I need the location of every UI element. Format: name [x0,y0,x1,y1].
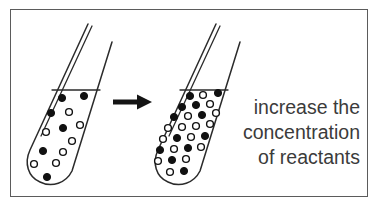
particle-open [43,129,50,136]
particle-open [193,123,200,130]
particle-open [53,160,60,167]
caption-line-3: of reactants [200,145,360,170]
particle-filled [173,134,180,141]
left-tube-outline [27,24,112,185]
particle-filled [168,156,175,163]
particle-filled [80,92,87,99]
particle-open [183,156,190,163]
caption-text: increase the concentration of reactants [200,95,360,170]
particle-filled [186,92,193,99]
particle-filled [184,144,191,151]
particle-open [77,122,84,129]
particle-filled [170,113,177,120]
particle-open [155,158,162,165]
arrow-head [137,95,152,110]
transformation-arrow [113,95,152,110]
particle-filled [58,94,65,101]
particle-filled [47,109,54,116]
particle-open [188,134,195,141]
particle-open [160,136,167,143]
particle-open [185,113,192,120]
caption-line-1: increase the [200,95,360,120]
particle-filled [59,124,66,131]
particle-filled [178,103,185,110]
particle-open [60,149,67,156]
particle-open [31,161,38,168]
particle-filled [43,173,50,180]
particle-filled [156,146,163,153]
particle-open [179,124,186,131]
particle-open [66,109,73,116]
particle-open [171,146,178,153]
particle-filled [39,147,46,154]
particle-open [69,138,76,145]
figure-container: increase the concentration of reactants [0,0,379,219]
particle-filled [180,167,187,174]
particle-open [167,169,174,176]
particle-open [165,125,172,132]
caption-line-2: concentration [200,120,360,145]
left-test-tube [27,24,112,185]
particle-filled [192,101,199,108]
